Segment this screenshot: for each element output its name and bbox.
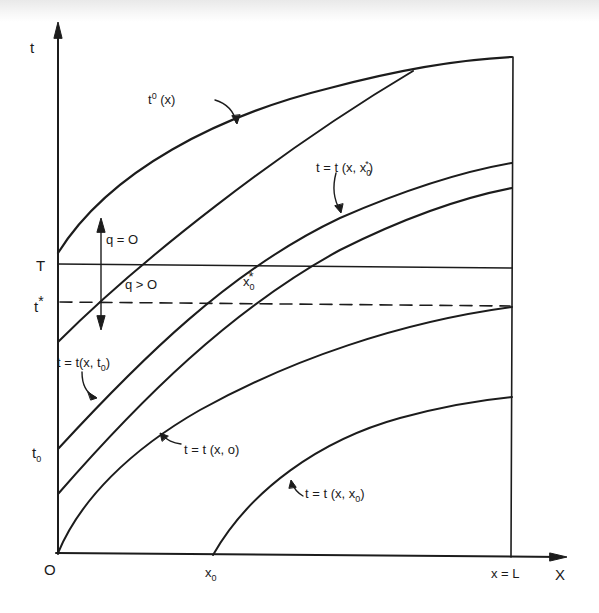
q-arrow-up-head [97,218,105,232]
t-star-level-label: t* [34,294,44,314]
pointer-t-x-0-head [160,433,168,441]
label-q-positive: q > O [125,278,157,291]
x0-tick-label: x0 [205,566,217,583]
pointer-t-x-x0-star-head [335,204,343,213]
x-axis-label: X [555,567,565,582]
origin-label: O [44,562,56,577]
x-axis-arrowhead [550,553,567,561]
label-t-x-t0: t = t(x, t0) [57,356,110,373]
t0-level-label: t0 [32,445,41,464]
pointer-t-x-t0-head [88,392,97,400]
label-t-x-x0: t = t (x, x0) [305,487,365,504]
curve-t-x-0 [58,307,512,553]
diagram-canvas [0,0,599,613]
q-arrow-down-head [97,316,105,330]
label-t-x-0: t = t (x, o) [184,443,239,456]
level-t-star-line [60,302,510,306]
label-q-zero: q = O [106,233,138,246]
label-t-x-x0-star: t = t (x, x0*) [316,160,373,178]
curve-t-x-x0 [213,397,512,555]
t-axis-label: t [30,40,34,55]
curve-characteristic-upper [58,71,413,342]
level-T-line [58,264,512,268]
pointer-t-x-x0-head [289,480,296,488]
label-x0-star: x0* [243,270,254,292]
T-level-label: T [36,258,45,273]
x-axis [56,553,562,557]
t-axis-arrowhead [54,22,62,38]
x-equals-L-label: x = L [491,567,520,580]
pointer-t-x-x0-star [334,173,340,210]
label-t-zero-of-x: t0 (x) [148,92,175,106]
